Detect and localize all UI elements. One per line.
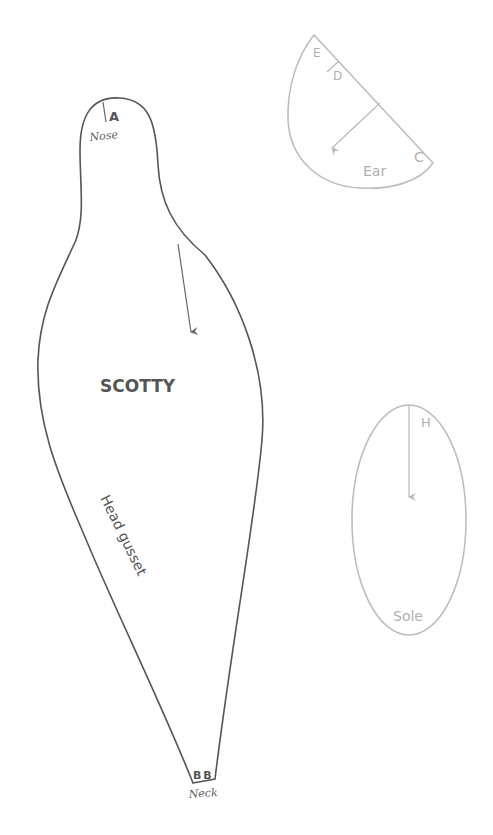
ear-mark-e: E [313, 46, 321, 60]
head-gusset-grainline-arrow [178, 244, 191, 332]
ear-mark-d: D [333, 69, 342, 83]
ear-piece: E D C Ear [288, 35, 433, 188]
head-gusset-outline [38, 98, 263, 783]
ear-label: Ear [363, 163, 386, 179]
sole-mark-h: H [421, 415, 431, 430]
pattern-canvas: A Nose SCOTTY Head gusset B B Neck E D C… [0, 0, 493, 835]
mark-a-label: A [109, 109, 119, 124]
head-gusset-label: Head gusset [97, 492, 150, 578]
nose-notch-mark [103, 102, 106, 122]
neck-caption: Neck [187, 786, 218, 801]
mark-bb-label: B B [193, 769, 211, 782]
piece-title-scotty: SCOTTY [100, 376, 176, 396]
ear-grainline-arrow [332, 103, 380, 148]
ear-outline [288, 35, 433, 188]
nose-caption: Nose [88, 128, 119, 144]
sole-label: Sole [393, 608, 423, 624]
sole-piece: H Sole [352, 405, 466, 635]
head-gusset-piece: A Nose SCOTTY Head gusset B B Neck [38, 98, 263, 801]
ear-mark-c: C [414, 149, 424, 165]
